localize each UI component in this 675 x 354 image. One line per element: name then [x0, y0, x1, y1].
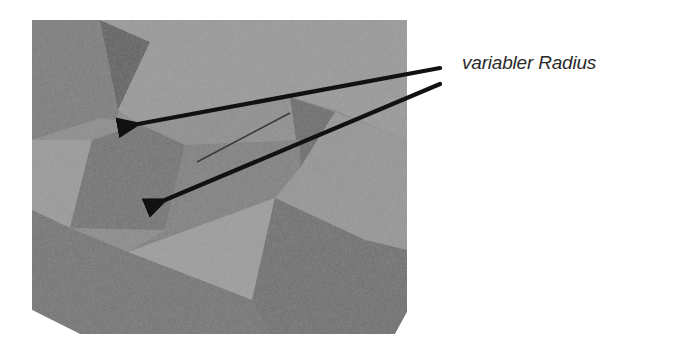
annotated-render-figure: variabler Radius [0, 0, 675, 354]
variable-radius-label: variabler Radius [462, 52, 596, 74]
